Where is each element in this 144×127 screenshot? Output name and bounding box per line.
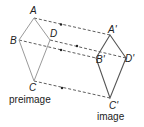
vector-b — [19, 40, 96, 58]
label-d: D — [50, 28, 57, 39]
arrowhead-c — [61, 87, 63, 89]
label-a-prime: A' — [107, 24, 118, 35]
label-b-prime: B' — [96, 54, 106, 65]
label-d-prime: D' — [125, 53, 135, 64]
label-c-prime: C' — [109, 100, 119, 111]
translation-diagram: A B D C A' B' D' C' preimage image — [0, 0, 144, 127]
image-kite — [96, 35, 126, 98]
arrowhead-a — [60, 23, 62, 25]
label-a: A — [29, 5, 37, 16]
label-b: B — [10, 35, 17, 46]
vector-arrowheads — [60, 23, 78, 89]
label-c: C — [29, 82, 37, 93]
preimage-caption: preimage — [9, 94, 51, 105]
arrowhead-d — [76, 45, 78, 47]
image-caption: image — [97, 111, 125, 122]
preimage-kite — [19, 18, 50, 81]
vector-a — [34, 18, 110, 35]
arrowhead-b — [60, 49, 62, 51]
